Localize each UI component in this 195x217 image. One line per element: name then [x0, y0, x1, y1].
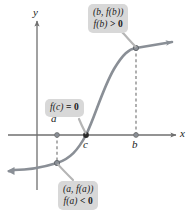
callout-point-a: (a, f(a)) f(a) < 0 — [58, 181, 98, 210]
callout-a-coords: (a, f(a)) — [63, 184, 93, 194]
callout-c-line1: f(c) = 0 — [50, 102, 79, 114]
tick-label-c: c — [83, 138, 88, 150]
tick-marker-b — [134, 133, 139, 138]
callout-b-relation: > 0 — [108, 19, 123, 29]
callout-point-c: f(c) = 0 — [45, 99, 84, 117]
callout-c-expr: f(c) — [50, 102, 64, 112]
leader-line-a — [58, 165, 73, 180]
callout-a-line2: f(a) < 0 — [63, 196, 93, 208]
callout-a-line1: (a, f(a)) — [63, 184, 93, 196]
y-axis-label: y — [33, 6, 38, 18]
callout-b-line2: f(b) > 0 — [93, 19, 123, 31]
callout-point-b: (b, f(b)) f(b) > 0 — [88, 4, 128, 33]
callout-b-line1: (b, f(b)) — [93, 7, 123, 19]
leader-line-c — [79, 119, 86, 133]
callout-a-expr: f(a) — [64, 196, 78, 206]
callout-a-relation: < 0 — [78, 196, 93, 206]
tick-marker-a — [55, 133, 60, 138]
leader-line-b — [121, 31, 136, 47]
curve-left-arrowhead — [7, 167, 15, 175]
callout-b-coords: (b, f(b)) — [93, 7, 123, 17]
tick-label-b: b — [132, 138, 138, 150]
callout-c-relation: = 0 — [64, 102, 79, 112]
function-curve — [14, 42, 172, 170]
callout-b-expr: f(b) — [94, 19, 108, 29]
x-axis-label: x — [180, 127, 185, 139]
figure-container: y x a c b (b, f(b)) f(b) > 0 f(c) = 0 (a… — [0, 0, 195, 217]
